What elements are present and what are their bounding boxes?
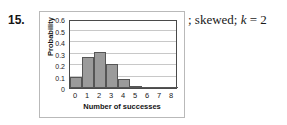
- x-tick-label: 1: [85, 91, 89, 100]
- exercise-number: 15.: [8, 13, 25, 27]
- x-tick-label: 2: [97, 91, 101, 100]
- bar: [166, 87, 178, 88]
- x-tick-label: 5: [133, 91, 137, 100]
- plot-area: [69, 20, 177, 89]
- x-tick-label: 6: [145, 91, 149, 100]
- answer-equals: =: [247, 12, 261, 27]
- x-tick-label: 3: [109, 91, 113, 100]
- bar: [118, 79, 130, 88]
- x-tick-label: 7: [157, 91, 161, 100]
- figure-container: Probability 00.10.20.30.40.50.6 01234567…: [39, 11, 185, 118]
- bar: [142, 87, 154, 88]
- y-tick-label: 0.1: [55, 74, 65, 81]
- bar: [94, 52, 106, 88]
- x-axis-title: Number of successes: [60, 102, 184, 111]
- answer-text: ; skewed; k = 2: [188, 12, 267, 28]
- y-axis-ticks: 00.10.20.30.40.50.6: [40, 20, 67, 89]
- bar: [82, 57, 94, 88]
- answer-prefix: ; skewed;: [188, 12, 241, 27]
- bar: [154, 87, 166, 88]
- y-tick-label: 0.3: [55, 51, 65, 58]
- x-axis-ticks: 012345678: [69, 91, 177, 102]
- bar: [70, 77, 82, 89]
- y-tick-label: 0.2: [55, 63, 65, 70]
- bar: [130, 86, 142, 88]
- bar-series: [70, 21, 176, 88]
- y-tick-label: 0.6: [55, 17, 65, 24]
- bar: [106, 64, 118, 88]
- y-tick-label: 0: [61, 86, 65, 93]
- x-tick-label: 8: [169, 91, 173, 100]
- y-tick-label: 0.4: [55, 40, 65, 47]
- x-tick-label: 4: [121, 91, 125, 100]
- y-tick-label: 0.5: [55, 28, 65, 35]
- answer-value: 2: [260, 12, 267, 27]
- x-tick-label: 0: [73, 91, 77, 100]
